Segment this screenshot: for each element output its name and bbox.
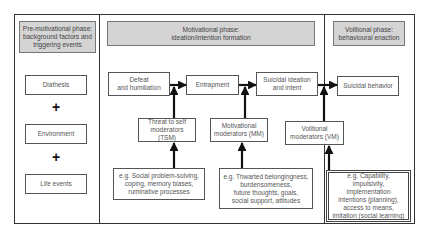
flow-arrows [0,0,428,238]
